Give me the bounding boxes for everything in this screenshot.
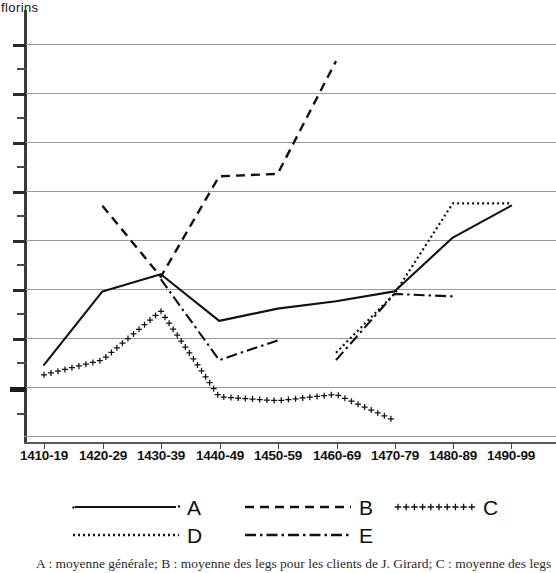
legend-row: A B C [0, 494, 556, 520]
series-c-marker [69, 365, 75, 371]
series-c-marker [136, 326, 142, 332]
series-c-marker [348, 398, 354, 404]
legend-label-e: E [359, 525, 373, 546]
x-tick-label: 1420-29 [79, 448, 127, 463]
series-c-marker [381, 413, 387, 419]
series-c-marker [178, 338, 184, 344]
series-c-marker [125, 336, 131, 342]
series-c-marker [375, 410, 381, 416]
series-c-marker [76, 363, 82, 369]
series-c-marker [307, 394, 313, 400]
series-c-marker [162, 314, 168, 320]
series-c-marker [147, 317, 153, 323]
series-c-marker [278, 397, 284, 403]
legend-c-marker [436, 504, 442, 510]
series-c-marker [48, 370, 54, 376]
series-c-marker [211, 386, 217, 392]
series-c-marker [166, 320, 172, 326]
series-c-marker [83, 361, 89, 367]
legend-c-marker [444, 504, 450, 510]
series-c-marker [186, 350, 192, 356]
series-c-marker [250, 396, 256, 402]
series-c-marker [170, 326, 176, 332]
series-c-marker [215, 392, 221, 398]
legend-swatch-e-icon [244, 528, 354, 542]
series-c-marker [264, 397, 270, 403]
series-c-marker [342, 395, 348, 401]
legend-label-a: A [187, 497, 201, 518]
legend-label-d: D [187, 525, 202, 546]
series-c-marker [130, 331, 136, 337]
series-c-marker [355, 401, 361, 407]
series-c-marker [362, 404, 368, 410]
x-tick-label: 1450-59 [254, 448, 302, 463]
x-tick-label: 1470-79 [371, 448, 419, 463]
legend-item-e: E [244, 522, 373, 548]
legend-swatch-a-icon [72, 500, 182, 514]
series-E [161, 279, 453, 360]
legend-swatch-d-icon [72, 528, 182, 542]
series-c-marker [257, 397, 263, 403]
legend-item-d: D [72, 522, 202, 548]
legend-c-marker [469, 504, 475, 510]
series-c-marker [62, 366, 68, 372]
x-tick-label: 1460-69 [313, 448, 361, 463]
legend-c-marker [460, 504, 466, 510]
legend-item-a: A [72, 494, 201, 520]
series-c-marker [221, 394, 227, 400]
legend-label-b: B [359, 497, 373, 518]
series-c-marker [314, 393, 320, 399]
series-c-marker [153, 312, 159, 318]
series-c-marker [207, 380, 213, 386]
legend-c-marker [395, 504, 401, 510]
series-c-marker [335, 392, 341, 398]
legend-c-marker [452, 504, 458, 510]
x-tick-label: 1480-89 [429, 448, 477, 463]
legend-label-c: C [483, 497, 498, 518]
series-c-marker [199, 368, 205, 374]
series-c-marker [97, 358, 103, 364]
legend-c-marker [411, 504, 417, 510]
legend-swatch-c-icon [393, 500, 478, 514]
series-c-marker [158, 308, 164, 314]
x-tick-label: 1440-49 [196, 448, 244, 463]
x-tick-label: 1430-39 [137, 448, 185, 463]
series-c-marker [242, 396, 248, 402]
series-c-marker [41, 372, 47, 378]
series-c-marker [368, 407, 374, 413]
series-C [41, 308, 394, 421]
legend-c-marker [428, 504, 434, 510]
series-c-marker [235, 395, 241, 401]
series-c-marker [103, 354, 109, 360]
series-c-marker [328, 392, 334, 398]
legend-item-b: B [244, 494, 373, 520]
legend-swatch-b-icon [244, 500, 354, 514]
legend-c-marker [403, 504, 409, 510]
legend-item-c: C [393, 494, 498, 520]
series-c-marker [190, 356, 196, 362]
series-layer [0, 0, 556, 442]
legend-row: D E [0, 522, 556, 548]
series-c-marker [182, 344, 188, 350]
series-D [336, 203, 511, 352]
figure-caption: A : moyenne générale; B : moyenne des le… [36, 556, 556, 573]
series-B [102, 61, 336, 277]
x-axis-tick-labels: 1410-19 1420-29 1430-39 1440-49 1450-59 … [0, 448, 556, 470]
series-c-marker [174, 332, 180, 338]
series-c-marker [90, 359, 96, 365]
chart-legend: A B C [0, 494, 556, 546]
series-c-marker [142, 322, 148, 328]
series-c-marker [285, 397, 291, 403]
series-c-marker [293, 396, 299, 402]
series-c-marker [114, 345, 120, 351]
legend-c-marker [419, 504, 425, 510]
series-c-marker [271, 397, 277, 403]
series-c-marker [194, 362, 200, 368]
series-c-marker [300, 395, 306, 401]
series-c-marker [321, 393, 327, 399]
series-c-marker [119, 340, 125, 346]
series-c-marker [55, 368, 61, 374]
series-c-marker [108, 349, 114, 355]
series-c-marker [388, 416, 394, 422]
